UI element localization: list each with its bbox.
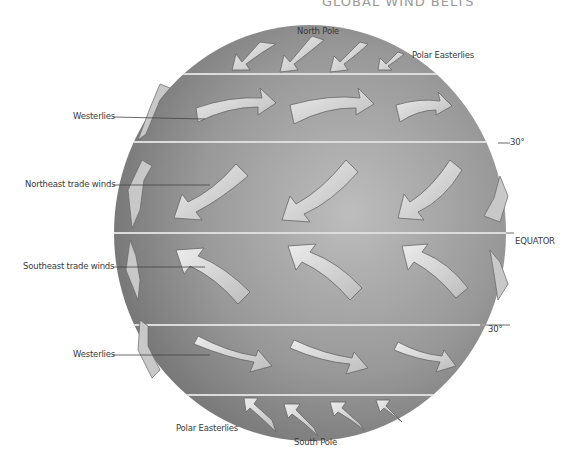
south-pole-label: South Pole [294,437,337,447]
westerlies-south-label: Westerlies [73,349,115,359]
lat-30-south-label: 30° [488,324,502,334]
polar-easterlies-south-label: Polar Easterlies [176,423,238,433]
north-pole-label: North Pole [297,26,339,36]
northeast-trade-winds-label: Northeast trade winds [25,179,115,189]
southeast-trade-winds-label: Southeast trade winds [23,261,114,271]
westerlies-north-label: Westerlies [73,111,115,121]
globe-diagram [0,0,576,466]
lat-30-north-label: 30° [510,137,524,147]
polar-easterlies-north-label: Polar Easterlies [412,50,474,60]
equator-label: EQUATOR [515,236,555,246]
